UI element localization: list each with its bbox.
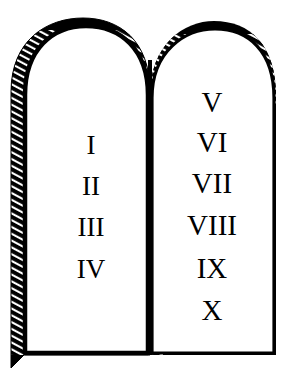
tablets-illustration: I II III IV V VI VII VIII IX X	[0, 0, 287, 380]
tablets-drawing: I II III IV V VI VII VIII IX X	[0, 0, 287, 380]
numeral-iii: III	[78, 212, 105, 242]
numeral-vii: VII	[192, 167, 232, 199]
numeral-iv: IV	[77, 254, 106, 284]
numeral-v: V	[202, 86, 223, 118]
numeral-x: X	[202, 294, 223, 326]
numeral-vi: VI	[197, 126, 228, 158]
numeral-ii: II	[82, 171, 100, 201]
left-tablet: I II III IV	[11, 18, 150, 368]
numeral-viii: VIII	[187, 209, 237, 241]
numeral-i: I	[87, 130, 96, 160]
numeral-ix: IX	[197, 252, 228, 284]
right-tablet: V VI VII VIII IX X	[150, 21, 276, 358]
